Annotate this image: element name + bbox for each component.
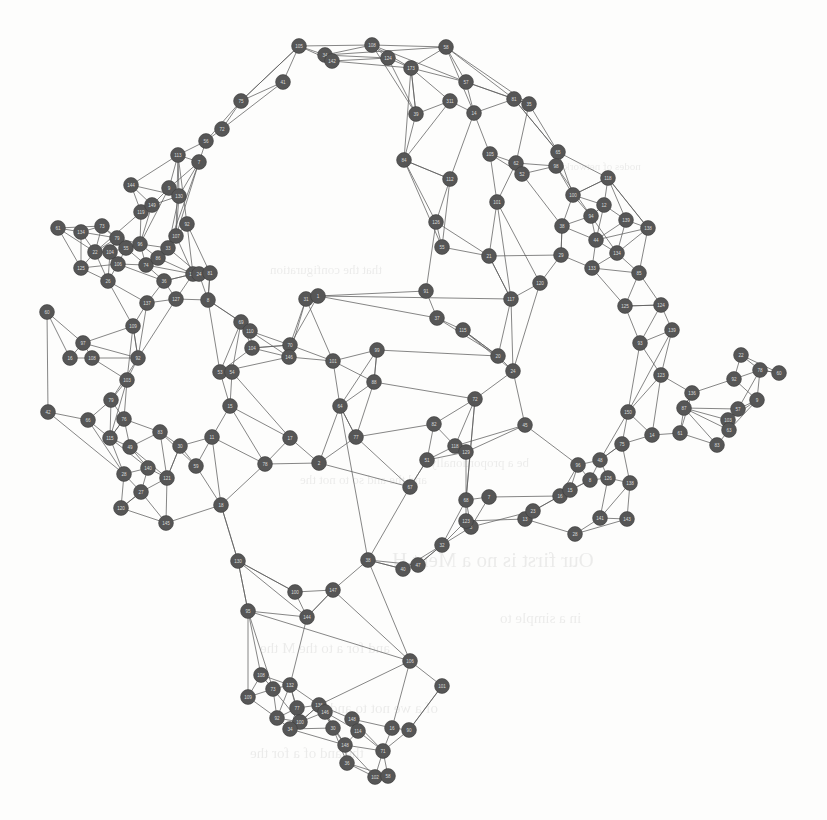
- graph-node[interactable]: 78: [753, 363, 768, 378]
- graph-node[interactable]: 42: [41, 405, 56, 420]
- node-circle[interactable]: [665, 323, 680, 338]
- graph-node[interactable]: 22: [734, 348, 749, 363]
- graph-node[interactable]: 14: [467, 106, 482, 121]
- graph-node[interactable]: 67: [403, 480, 418, 495]
- node-circle[interactable]: [325, 54, 340, 69]
- graph-node[interactable]: 114: [351, 724, 366, 739]
- node-circle[interactable]: [367, 375, 382, 390]
- graph-node[interactable]: 145: [159, 516, 174, 531]
- graph-node[interactable]: 40: [396, 562, 411, 577]
- graph-node[interactable]: 101: [490, 195, 505, 210]
- graph-node[interactable]: 36: [340, 756, 355, 771]
- graph-node[interactable]: 82: [427, 417, 442, 432]
- graph-node[interactable]: 96: [571, 458, 586, 473]
- graph-node[interactable]: 149: [145, 198, 160, 213]
- graph-node[interactable]: 52: [515, 167, 530, 182]
- node-circle[interactable]: [645, 428, 660, 443]
- node-circle[interactable]: [584, 209, 599, 224]
- node-circle[interactable]: [430, 311, 445, 326]
- graph-node[interactable]: 130: [231, 554, 246, 569]
- node-circle[interactable]: [203, 266, 218, 281]
- graph-node[interactable]: 136: [685, 386, 700, 401]
- node-circle[interactable]: [618, 299, 633, 314]
- graph-node[interactable]: 9: [750, 393, 765, 408]
- graph-node[interactable]: 126: [429, 215, 444, 230]
- graph-node[interactable]: 311: [443, 94, 458, 109]
- graph-node[interactable]: 93: [633, 336, 648, 351]
- node-circle[interactable]: [192, 155, 207, 170]
- node-circle[interactable]: [254, 668, 269, 683]
- graph-node[interactable]: 77: [349, 430, 364, 445]
- node-circle[interactable]: [429, 215, 444, 230]
- graph-node[interactable]: 134: [610, 246, 625, 261]
- graph-node[interactable]: 147: [326, 583, 341, 598]
- node-circle[interactable]: [654, 368, 669, 383]
- graph-node[interactable]: 83: [153, 425, 168, 440]
- node-circle[interactable]: [734, 348, 749, 363]
- graph-node[interactable]: 39: [409, 107, 424, 122]
- node-circle[interactable]: [533, 276, 548, 291]
- graph-node[interactable]: 106: [111, 257, 126, 272]
- node-circle[interactable]: [205, 430, 220, 445]
- graph-node[interactable]: 15: [223, 399, 238, 414]
- node-circle[interactable]: [282, 350, 297, 365]
- node-circle[interactable]: [120, 373, 135, 388]
- graph-node[interactable]: 61: [51, 221, 66, 236]
- node-circle[interactable]: [288, 585, 303, 600]
- node-circle[interactable]: [88, 245, 103, 260]
- node-circle[interactable]: [750, 393, 765, 408]
- node-circle[interactable]: [141, 461, 156, 476]
- node-circle[interactable]: [326, 583, 341, 598]
- node-circle[interactable]: [241, 690, 256, 705]
- graph-node[interactable]: 37: [430, 311, 445, 326]
- node-circle[interactable]: [459, 75, 474, 90]
- node-circle[interactable]: [351, 724, 366, 739]
- graph-node[interactable]: 104: [245, 341, 260, 356]
- node-circle[interactable]: [318, 705, 333, 720]
- node-circle[interactable]: [632, 266, 647, 281]
- node-circle[interactable]: [171, 148, 186, 163]
- node-circle[interactable]: [258, 457, 273, 472]
- graph-node[interactable]: 27: [134, 485, 149, 500]
- graph-node[interactable]: 32: [435, 538, 450, 553]
- graph-node[interactable]: 16: [385, 721, 400, 736]
- node-circle[interactable]: [333, 399, 348, 414]
- graph-node[interactable]: 132: [283, 678, 298, 693]
- graph-node[interactable]: 60: [40, 305, 55, 320]
- graph-node[interactable]: 44: [589, 233, 604, 248]
- node-circle[interactable]: [223, 399, 238, 414]
- graph-node[interactable]: 108: [254, 668, 269, 683]
- graph-node[interactable]: 123: [654, 368, 669, 383]
- graph-node[interactable]: 148: [338, 738, 353, 753]
- node-circle[interactable]: [419, 284, 434, 299]
- node-circle[interactable]: [597, 198, 612, 213]
- node-circle[interactable]: [76, 336, 91, 351]
- node-circle[interactable]: [435, 538, 450, 553]
- node-circle[interactable]: [685, 386, 700, 401]
- node-circle[interactable]: [435, 240, 450, 255]
- graph-node[interactable]: 92: [727, 372, 742, 387]
- node-circle[interactable]: [404, 61, 419, 76]
- graph-node[interactable]: 17: [283, 431, 298, 446]
- node-circle[interactable]: [189, 459, 204, 474]
- graph-node[interactable]: 97: [76, 336, 91, 351]
- graph-node[interactable]: 7: [482, 490, 497, 505]
- node-circle[interactable]: [633, 336, 648, 351]
- node-circle[interactable]: [397, 153, 412, 168]
- node-circle[interactable]: [677, 401, 692, 416]
- node-circle[interactable]: [549, 159, 564, 174]
- node-circle[interactable]: [459, 445, 474, 460]
- graph-node[interactable]: 109: [126, 319, 141, 334]
- graph-node[interactable]: 76: [117, 412, 132, 427]
- graph-node[interactable]: 55: [435, 240, 450, 255]
- node-circle[interactable]: [459, 514, 474, 529]
- node-circle[interactable]: [551, 145, 566, 160]
- node-circle[interactable]: [241, 604, 256, 619]
- graph-node[interactable]: 49: [123, 440, 138, 455]
- node-circle[interactable]: [311, 289, 326, 304]
- graph-node[interactable]: 63: [722, 423, 737, 438]
- node-circle[interactable]: [593, 453, 608, 468]
- node-circle[interactable]: [159, 516, 174, 531]
- node-circle[interactable]: [134, 485, 149, 500]
- graph-node[interactable]: 108: [365, 38, 380, 53]
